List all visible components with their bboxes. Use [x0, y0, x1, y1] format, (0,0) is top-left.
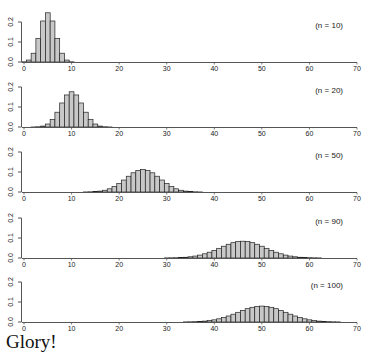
bar — [231, 314, 236, 322]
histogram-bars — [31, 92, 112, 127]
bar — [145, 170, 150, 192]
x-tick-label: 70 — [353, 195, 361, 202]
bar — [41, 21, 46, 62]
caption-text: Glory! — [6, 331, 57, 353]
x-tick-label: 20 — [115, 261, 123, 268]
bar — [293, 257, 298, 258]
x-tick-label: 20 — [115, 65, 123, 72]
bar — [207, 252, 212, 258]
bar — [240, 310, 245, 322]
bar — [160, 180, 165, 192]
y-tick-label: 0.0 — [7, 122, 14, 132]
bar — [98, 191, 103, 192]
bar — [255, 244, 260, 258]
y-tick-label: 0.1 — [7, 233, 14, 243]
y-tick-label: 0.2 — [7, 17, 14, 27]
bar — [317, 321, 322, 322]
n-annotation: (n = 90) — [315, 217, 343, 226]
bar — [83, 112, 88, 127]
y-tick-label: 0.1 — [7, 102, 14, 112]
x-tick-label: 30 — [163, 261, 171, 268]
bar — [298, 318, 303, 322]
bar — [164, 184, 169, 192]
bar — [131, 173, 136, 192]
y-tick-label: 0.1 — [7, 297, 14, 307]
x-tick-label: 0 — [22, 261, 26, 268]
bar — [141, 170, 146, 192]
bar — [221, 318, 226, 322]
bar — [64, 95, 69, 127]
x-tick-label: 20 — [115, 130, 123, 137]
bar — [122, 180, 127, 192]
bar — [117, 184, 122, 192]
bar — [245, 309, 250, 322]
panel-1: 0.00.10.2010203040506070(n = 10) — [7, 13, 361, 72]
bar — [302, 319, 307, 322]
y-tick-label: 0.2 — [7, 82, 14, 92]
bar — [136, 170, 141, 192]
bar — [50, 21, 55, 62]
panel-3: 0.00.10.2010203040506070(n = 50) — [7, 147, 361, 202]
x-tick-label: 10 — [68, 325, 76, 332]
bar — [102, 190, 107, 192]
histogram-bars — [183, 306, 340, 322]
x-tick-label: 70 — [353, 261, 361, 268]
x-tick-label: 50 — [258, 261, 266, 268]
bar — [288, 256, 293, 258]
x-tick-label: 0 — [22, 195, 26, 202]
bar — [250, 243, 255, 258]
bar — [264, 306, 269, 322]
x-tick-label: 30 — [163, 325, 171, 332]
x-tick-label: 10 — [68, 261, 76, 268]
bar — [226, 316, 231, 322]
bar — [279, 310, 284, 322]
x-tick-label: 30 — [163, 195, 171, 202]
x-tick-label: 30 — [163, 130, 171, 137]
bar — [198, 255, 203, 258]
n-annotation: (n = 50) — [315, 151, 343, 160]
bar — [245, 242, 250, 258]
bar — [231, 243, 236, 258]
x-tick-label: 50 — [258, 65, 266, 72]
bar — [45, 124, 50, 127]
x-tick-label: 50 — [258, 325, 266, 332]
x-tick-label: 0 — [22, 130, 26, 137]
x-tick-label: 60 — [306, 65, 314, 72]
x-tick-label: 40 — [210, 261, 218, 268]
n-annotation: (n = 10) — [315, 21, 343, 30]
x-tick-label: 60 — [306, 130, 314, 137]
x-tick-label: 50 — [258, 130, 266, 137]
bar — [236, 312, 241, 322]
x-tick-label: 20 — [115, 195, 123, 202]
x-tick-label: 60 — [306, 325, 314, 332]
y-tick-label: 0.0 — [7, 187, 14, 197]
bar — [321, 321, 326, 322]
x-tick-label: 40 — [210, 65, 218, 72]
y-tick-label: 0.1 — [7, 37, 14, 47]
x-tick-label: 70 — [353, 325, 361, 332]
bar — [288, 314, 293, 322]
bar — [264, 248, 269, 258]
bar — [69, 92, 74, 127]
bar — [307, 320, 312, 322]
bar — [226, 244, 231, 258]
bar — [274, 309, 279, 322]
x-tick-label: 40 — [210, 195, 218, 202]
bar — [50, 120, 55, 127]
y-tick-label: 0.2 — [7, 147, 14, 157]
bar — [26, 60, 31, 62]
bar — [60, 53, 65, 62]
bar — [312, 321, 317, 322]
bar — [169, 187, 174, 192]
bar — [274, 252, 279, 258]
bar — [236, 242, 241, 258]
bar — [259, 306, 264, 322]
histogram-bars — [83, 170, 202, 192]
x-tick-label: 20 — [115, 325, 123, 332]
bar — [64, 60, 69, 62]
bar — [259, 246, 264, 258]
y-tick-label: 0.2 — [7, 213, 14, 223]
bar — [283, 255, 288, 258]
bar — [217, 248, 222, 258]
bar — [202, 254, 207, 258]
